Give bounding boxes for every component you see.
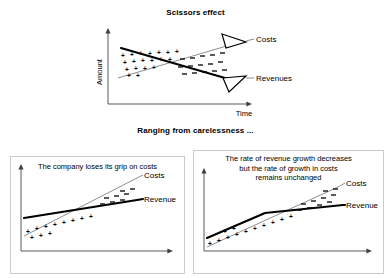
svg-text:+: +	[168, 56, 172, 63]
costs-leader-line	[246, 39, 254, 41]
svg-text:+: +	[123, 59, 127, 66]
figure-root: Scissors effect Amount Time ++ ++	[0, 0, 391, 278]
page-title: Scissors effect	[0, 8, 391, 17]
svg-text:+: +	[271, 219, 275, 226]
right-caption-line-2: but the rate of growth in costs	[193, 164, 384, 174]
svg-text:+: +	[217, 237, 221, 244]
left-costs-leader-line	[135, 175, 143, 179]
svg-text:+: +	[89, 213, 93, 220]
left-x-axis-arrowhead	[167, 248, 173, 253]
svg-text:+: +	[143, 65, 147, 72]
svg-text:+: +	[53, 221, 57, 228]
svg-text:+: +	[226, 234, 230, 241]
x-axis-label: Time	[236, 109, 252, 118]
svg-text:+: +	[157, 49, 161, 56]
svg-text:+: +	[127, 72, 131, 79]
svg-text:+: +	[44, 223, 48, 230]
section-subtitle: Ranging from carelessness ...	[0, 126, 391, 135]
svg-text:+: +	[71, 217, 75, 224]
svg-text:+: +	[150, 57, 154, 64]
right-panel: ++ ++ ++ ++ ++ ++ Costs	[193, 150, 384, 274]
left-revenue-label: Revenue	[144, 195, 177, 204]
y-axis-arrowhead	[105, 28, 110, 34]
right-caption-line-1: The rate of revenue growth decreases	[193, 154, 384, 164]
left-panel-svg: ++ ++ ++ ++ ++ + Costs Revenue	[10, 156, 185, 274]
svg-text:+: +	[159, 56, 163, 63]
y-axis-label: Amount	[95, 58, 104, 85]
svg-text:+: +	[35, 225, 39, 232]
svg-text:+: +	[208, 240, 212, 247]
svg-text:+: +	[39, 232, 43, 239]
svg-text:+: +	[152, 64, 156, 71]
plus-fill-region: ++ ++ ++ + ++ ++ ++ ++ ++ ++	[121, 48, 179, 79]
right-panel-caption: The rate of revenue growth decreases but…	[193, 154, 384, 183]
svg-text:+: +	[132, 58, 136, 65]
right-plus-fill-region: ++ ++ ++ ++ ++ ++	[208, 213, 293, 247]
left-plus-fill-region: ++ ++ ++ ++ ++ +	[26, 213, 93, 241]
svg-text:+: +	[262, 222, 266, 229]
svg-text:+: +	[235, 231, 239, 238]
svg-text:+: +	[134, 65, 138, 72]
svg-text:+: +	[130, 51, 134, 58]
left-panel: ++ ++ ++ ++ ++ + Costs Revenue	[10, 156, 185, 274]
costs-arrow-marker	[222, 34, 246, 48]
svg-text:+: +	[280, 216, 284, 223]
svg-text:+: +	[136, 72, 140, 79]
svg-text:+: +	[223, 228, 227, 235]
svg-text:+: +	[166, 49, 170, 56]
svg-text:+: +	[121, 52, 125, 59]
costs-label: Costs	[256, 35, 276, 44]
right-revenue-label: Revenue	[346, 201, 379, 210]
revenues-label: Revenues	[256, 74, 292, 83]
scissors-chart-svg: Amount Time ++ ++ ++ + ++ ++ ++ ++ ++ ++	[96, 26, 296, 126]
svg-text:+: +	[30, 234, 34, 241]
x-axis-arrowhead	[246, 101, 252, 106]
scissors-chart: Amount Time ++ ++ ++ + ++ ++ ++ ++ ++ ++	[96, 26, 296, 126]
svg-text:+: +	[175, 48, 179, 55]
svg-text:+: +	[232, 225, 236, 232]
svg-text:+: +	[48, 230, 52, 237]
right-caption-line-3: remains unchanged	[193, 173, 384, 183]
svg-text:+: +	[139, 50, 143, 57]
left-revenue-leader-line	[137, 199, 143, 200]
svg-text:+: +	[289, 213, 293, 220]
svg-text:+: +	[253, 225, 257, 232]
svg-text:+: +	[80, 215, 84, 222]
svg-text:+: +	[62, 219, 66, 226]
left-panel-caption: The company loses its grip on costs	[10, 162, 185, 172]
left-costs-series-line	[24, 179, 135, 236]
left-costs-label: Costs	[144, 171, 164, 180]
svg-text:+: +	[244, 228, 248, 235]
right-x-axis-arrowhead	[366, 248, 372, 253]
right-costs-leader-line	[338, 183, 345, 187]
svg-text:+: +	[141, 57, 145, 64]
revenues-arrow-marker	[223, 76, 246, 92]
svg-text:+: +	[148, 50, 152, 57]
